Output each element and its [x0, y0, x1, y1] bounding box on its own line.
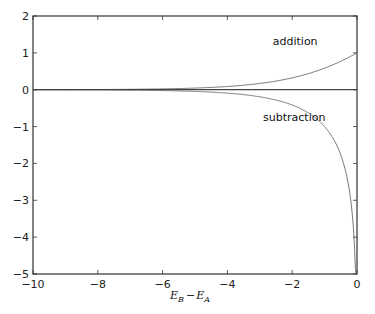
- y-tick-label: −1: [13, 121, 29, 134]
- chart: −10−8−6−4−20 210−1−2−3−4−5 additionsubtr…: [0, 0, 375, 314]
- x-tick-label: −6: [154, 278, 170, 291]
- y-tick-label: −3: [13, 194, 29, 207]
- x-tick-label: −4: [219, 278, 235, 291]
- x-tick-label: −2: [284, 278, 300, 291]
- y-tick-label: −5: [13, 268, 29, 281]
- x-tick-label: −8: [90, 278, 106, 291]
- x-tick-label: 0: [354, 278, 361, 291]
- y-tick-label: 1: [22, 47, 29, 60]
- axes-frame: [33, 16, 357, 274]
- x-axis-label: EB−EA: [169, 289, 210, 304]
- y-tick-label: −4: [13, 231, 29, 244]
- y-tick-label: 0: [22, 84, 29, 97]
- annotation-addition: addition: [273, 35, 318, 48]
- plot-area: [33, 16, 357, 274]
- y-tick-label: −2: [13, 157, 29, 170]
- y-tick-label: 2: [22, 10, 29, 23]
- annotation-subtraction: subtraction: [263, 111, 325, 124]
